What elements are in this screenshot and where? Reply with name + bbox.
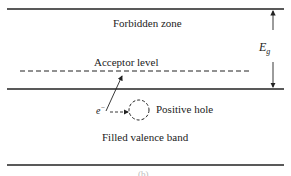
energy-gap-label: Eg — [259, 40, 270, 56]
positive-hole-icon — [129, 100, 149, 120]
valence-band-label: Filled valence band — [102, 131, 188, 143]
forbidden-zone-label: Forbidden zone — [113, 17, 182, 29]
acceptor-level-label: Acceptor level — [94, 56, 158, 68]
energy-gap-subscript: g — [266, 47, 270, 56]
electron-label: e− — [96, 104, 105, 116]
electron-charge: − — [100, 104, 105, 112]
electron-transition-arrow — [106, 76, 122, 111]
positive-hole-label: Positive hole — [156, 103, 213, 115]
figure-caption: (b) — [138, 169, 149, 176]
band-diagram: Forbidden zone Acceptor level Eg e− Posi… — [0, 0, 291, 176]
